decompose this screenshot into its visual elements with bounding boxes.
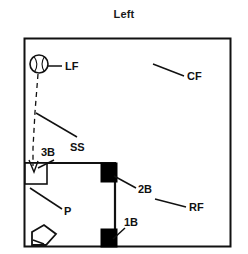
label-ss: SS [70, 141, 85, 153]
field-diagram: LF CF RF SS 3B 2B 1B P [0, 0, 248, 254]
label-3b: 3B [41, 146, 55, 158]
baseball-icon [30, 55, 48, 73]
label-lf: LF [65, 60, 79, 72]
label-rf: RF [189, 201, 204, 213]
label-cf: CF [187, 70, 202, 82]
label-2b: 2B [138, 183, 152, 195]
label-1b: 1B [124, 216, 138, 228]
figure-container: Left LF CF RF SS [0, 0, 248, 254]
label-p: P [64, 205, 71, 217]
base-2b-marker [101, 163, 117, 182]
